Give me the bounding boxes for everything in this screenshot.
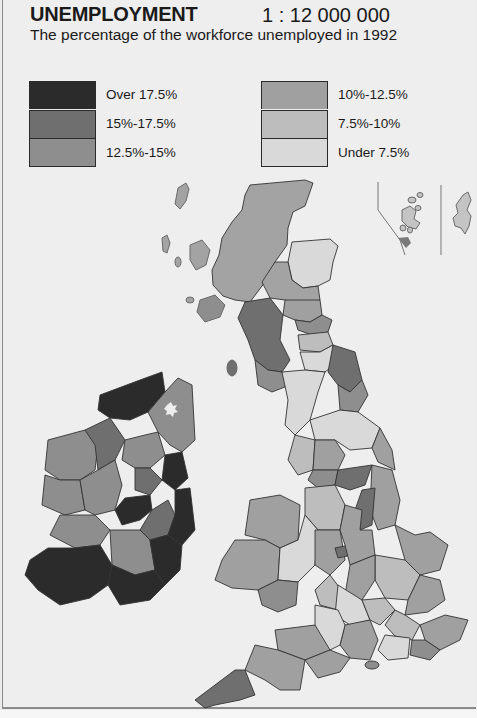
wales-midlands-south — [195, 485, 468, 708]
islands-inset — [378, 182, 471, 255]
scotland — [162, 180, 340, 392]
choropleth-map — [0, 0, 477, 718]
ireland — [25, 372, 195, 605]
